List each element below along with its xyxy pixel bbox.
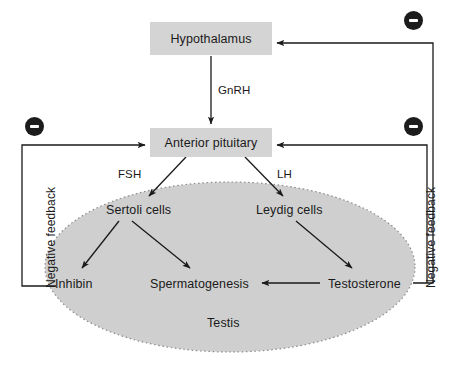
edge-label-gnrh-text: GnRH bbox=[218, 84, 250, 96]
node-testis-label: Testis bbox=[207, 316, 240, 330]
negative-feedback-badge-left bbox=[25, 117, 44, 136]
feedback-label-left-text: Negative feedback bbox=[44, 187, 58, 288]
feedback-label-right: Negative feedback bbox=[424, 187, 438, 288]
feedback-label-right-text: Negative feedback bbox=[424, 187, 438, 288]
node-spermatogenesis[interactable]: Spermatogenesis bbox=[150, 277, 249, 291]
edge-label-fsh-text: FSH bbox=[118, 168, 141, 180]
node-inhibin-label: Inhibin bbox=[55, 277, 93, 291]
node-inhibin[interactable]: Inhibin bbox=[55, 277, 93, 291]
node-leydig-cells[interactable]: Leydig cells bbox=[256, 203, 323, 217]
feedback-label-left: Negative feedback bbox=[44, 187, 58, 288]
node-sertoli-cells-label: Sertoli cells bbox=[106, 203, 171, 217]
node-leydig-cells-label: Leydig cells bbox=[256, 203, 323, 217]
node-testosterone-label: Testosterone bbox=[328, 277, 401, 291]
negative-feedback-badge-right bbox=[404, 117, 423, 136]
node-anterior-pituitary-label: Anterior pituitary bbox=[165, 136, 258, 150]
node-sertoli-cells[interactable]: Sertoli cells bbox=[106, 203, 171, 217]
edge-label-lh-text: LH bbox=[277, 168, 292, 180]
node-spermatogenesis-label: Spermatogenesis bbox=[150, 277, 249, 291]
node-testis: Testis bbox=[207, 316, 240, 330]
hpg-axis-diagram: Hypothalamus Anterior pituitary Sertoli … bbox=[0, 0, 455, 377]
edge-label-gnrh: GnRH bbox=[218, 84, 250, 96]
minus-sign-icon bbox=[30, 125, 39, 128]
edge-label-lh: LH bbox=[277, 168, 292, 180]
node-anterior-pituitary[interactable]: Anterior pituitary bbox=[150, 128, 272, 157]
negative-feedback-badge-top-right bbox=[404, 11, 423, 30]
minus-sign-icon bbox=[409, 125, 418, 128]
edge-label-fsh: FSH bbox=[118, 168, 141, 180]
node-testosterone[interactable]: Testosterone bbox=[328, 277, 401, 291]
node-hypothalamus[interactable]: Hypothalamus bbox=[150, 22, 272, 55]
minus-sign-icon bbox=[409, 19, 418, 22]
node-hypothalamus-label: Hypothalamus bbox=[170, 32, 251, 46]
